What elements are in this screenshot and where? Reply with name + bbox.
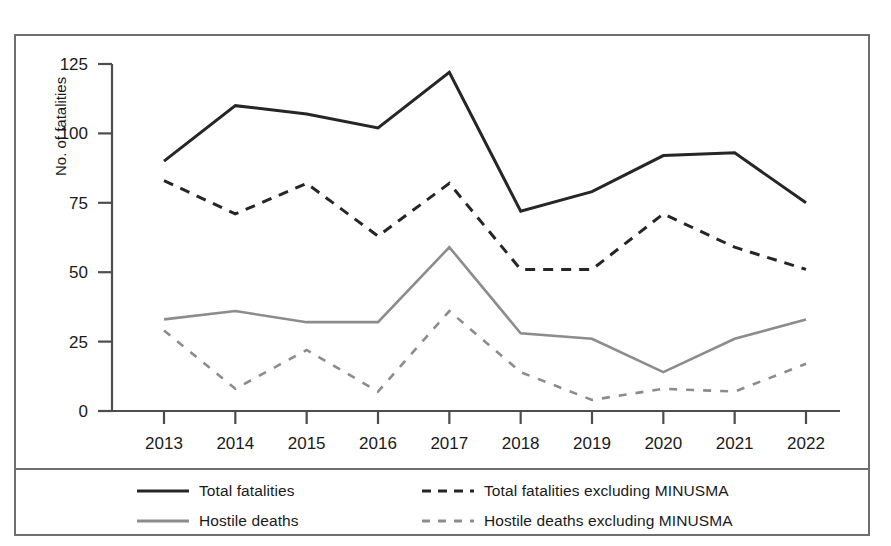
legend-entry-hostile-deaths-excl-minusma: Hostile deaths excluding MINUSMA: [421, 512, 733, 530]
legend-swatch-dashed-dark-icon: [421, 484, 475, 498]
legend-row-1: Total fatalities Total fatalities exclud…: [16, 476, 868, 506]
legend-row-2: Hostile deaths Hostile deaths excluding …: [16, 506, 868, 536]
x-tick-label: 2021: [716, 434, 754, 453]
chart-legend: Total fatalities Total fatalities exclud…: [16, 470, 868, 534]
x-tick-label: 2014: [216, 434, 254, 453]
legend-swatch-dashed-grey-icon: [421, 514, 475, 528]
x-tick-label: 2013: [145, 434, 183, 453]
x-tick-label: 2022: [787, 434, 825, 453]
series-line-3: [164, 311, 806, 400]
legend-swatch-solid-dark-icon: [136, 484, 190, 498]
plot-area: No. of fatalities 0255075100125201320142…: [16, 36, 868, 468]
x-tick-label: 2020: [644, 434, 682, 453]
legend-entry-hostile-deaths: Hostile deaths: [136, 512, 421, 530]
y-tick-label: 0: [79, 402, 88, 421]
y-tick-label: 75: [69, 194, 88, 213]
x-tick-label: 2018: [502, 434, 540, 453]
x-tick-label: 2019: [573, 434, 611, 453]
chart-figure: No. of fatalities 0255075100125201320142…: [14, 34, 870, 536]
y-tick-label: 25: [69, 333, 88, 352]
y-axis-title: No. of fatalities: [52, 0, 69, 176]
series-line-0: [164, 72, 806, 211]
legend-label-hostile-deaths: Hostile deaths: [199, 512, 299, 530]
line-chart-svg: 0255075100125201320142015201620172018201…: [16, 36, 868, 468]
legend-entry-total-fatalities-excl-minusma: Total fatalities excluding MINUSMA: [421, 482, 729, 500]
x-tick-label: 2015: [288, 434, 326, 453]
page-top-margin: [0, 0, 891, 34]
x-tick-label: 2016: [359, 434, 397, 453]
x-tick-label: 2017: [430, 434, 468, 453]
y-tick-label: 50: [69, 263, 88, 282]
legend-entry-total-fatalities: Total fatalities: [136, 482, 421, 500]
legend-swatch-solid-grey-icon: [136, 514, 190, 528]
legend-label-hostile-deaths-excl-minusma: Hostile deaths excluding MINUSMA: [484, 512, 733, 530]
legend-label-total-fatalities-excl-minusma: Total fatalities excluding MINUSMA: [484, 482, 729, 500]
series-line-1: [164, 181, 806, 270]
legend-label-total-fatalities: Total fatalities: [199, 482, 295, 500]
series-line-2: [164, 247, 806, 372]
